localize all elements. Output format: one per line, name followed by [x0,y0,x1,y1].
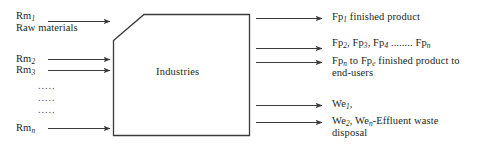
input-label-rm1: Rm1 [16,10,35,23]
output-label-fp4-code: , Fp [368,37,385,48]
output-label-fp1-text: finished product [347,11,420,22]
industries-box-label: Industries [156,66,199,77]
output-label-fpn-fpe-line1: Fpn to Fpe finished product to [332,55,460,68]
output-label-we2-code: We [332,115,346,126]
output-label-fp1-subscript: 1 [343,15,347,24]
output-label-wen-subscript: n [369,119,373,128]
input-label-rmn-subscript: n [31,126,35,135]
input-label-rm3-subscript: 3 [31,68,35,77]
output-label-fp1: Fp1 finished product [332,11,420,24]
input-ellipsis-row-3: ..... [38,104,56,115]
output-label-we-effluent-line2: disposal [332,127,367,140]
input-label-rm3: Rm3 [16,64,35,77]
input-label-rm1-code: Rm [16,10,31,21]
output-label-fp3-subscript: 3 [364,41,368,50]
input-ellipsis-row-2: ..... [38,92,56,103]
output-label-fpe-mid: to Fp [347,55,372,66]
output-label-we2-text: -Effluent waste [373,115,439,126]
diagram-canvas: Industries Rm1 Raw materials Rm2 Rm3 ...… [0,0,477,149]
output-label-we1-text: , [350,98,353,109]
output-label-we1: We1, [332,98,352,111]
output-label-fpn-code: Fp [415,37,426,48]
output-label-fpn-fpe-line2: end-users [332,67,373,80]
input-ellipsis-row-1: ..... [38,80,56,91]
output-label-we1-code: We [332,98,346,109]
output-label-fp3-code: , Fp [347,37,364,48]
output-label-wen-mid: , We [350,115,369,126]
input-caption-raw-materials: Raw materials [16,22,78,35]
output-label-fp2-code: Fp [332,37,343,48]
input-label-rmn: Rmn [16,122,35,135]
input-label-rm2-code: Rm [16,53,31,64]
output-label-fp4-subscript: 4 [384,41,388,50]
input-label-rm3-code: Rm [16,64,31,75]
output-label-series-ellipsis: ........ [388,37,415,48]
output-label-fpn-subscript: n [427,41,431,50]
input-label-rmn-code: Rm [16,122,31,133]
output-label-we-effluent-line1: We2, Wen-Effluent waste [332,115,438,128]
output-label-fpn-text: finished product to [376,55,460,66]
output-label-fpn2-code: Fp [332,55,343,66]
output-label-fp-series: Fp2, Fp3, Fp4 ........ Fpn [332,37,431,50]
output-label-we1-subscript: 1 [346,102,350,111]
output-label-fp2-subscript: 2 [343,41,347,50]
output-label-fp1-code: Fp [332,11,343,22]
